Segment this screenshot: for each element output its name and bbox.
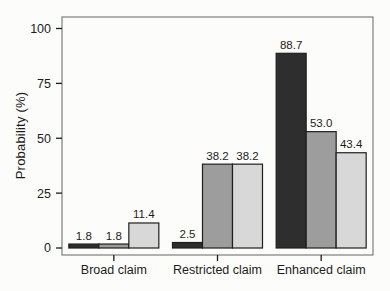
bar-value-label: 38.2 [206,150,228,162]
bar-value-label: 11.4 [133,208,155,220]
x-category-label: Enhanced claim [277,263,366,277]
y-tick-label: 100 [30,22,51,36]
medium-bar [99,244,129,248]
x-category-label: Restricted claim [173,263,262,277]
dark-bar [276,53,306,248]
y-tick-label: 75 [37,77,51,91]
dark-bar [173,243,203,248]
light-bar [233,164,263,248]
bar-value-label: 1.8 [76,230,92,242]
y-tick-label: 0 [44,241,51,255]
dark-bar [69,244,99,248]
light-bar [129,223,159,248]
bar-value-label: 88.7 [280,39,302,51]
light-bar [336,153,366,248]
bar-value-label: 2.5 [180,228,196,240]
medium-bar [203,164,233,248]
y-tick-label: 50 [37,132,51,146]
bar-value-label: 38.2 [236,150,258,162]
x-category-label: Broad claim [81,263,147,277]
y-tick-label: 25 [37,187,51,201]
medium-bar [306,132,336,248]
bar-value-label: 1.8 [106,230,122,242]
bar-value-label: 53.0 [310,117,332,129]
bar-chart-figure: 0255075100Broad claimRestricted claimEnh… [0,0,390,291]
chart-svg: 0255075100Broad claimRestricted claimEnh… [0,0,390,291]
bar-value-label: 43.4 [340,138,363,150]
